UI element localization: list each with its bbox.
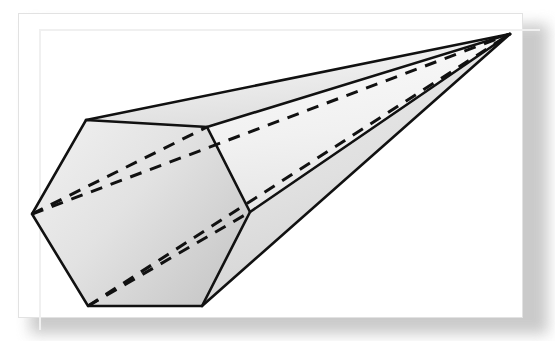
pyramid-faces	[32, 34, 510, 306]
figure-root: Hexagonal pyramid (hexagonal cone) in ob…	[0, 0, 555, 341]
hexagonal-pyramid-drawing: Hexagonal pyramid (hexagonal cone) in ob…	[18, 13, 523, 318]
face-upper-right-lateral	[207, 34, 510, 212]
